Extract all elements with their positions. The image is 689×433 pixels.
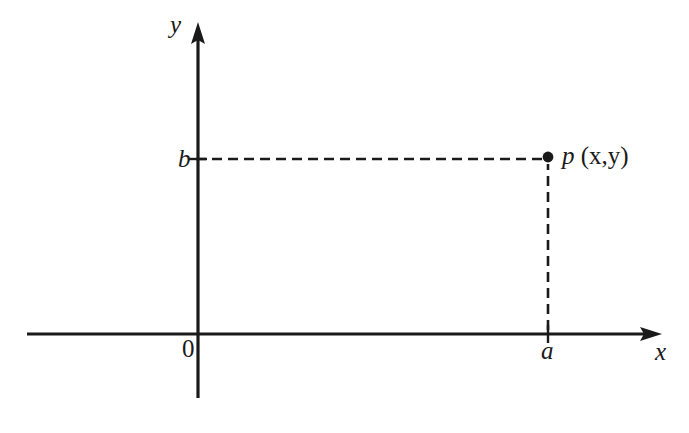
y-axis-label: y [170, 12, 181, 37]
point-label-coords: (x,y) [575, 142, 629, 169]
y-tick-label-b: b [178, 146, 191, 171]
diagram-vector-layer [0, 0, 689, 433]
origin-label: 0 [182, 336, 195, 361]
coordinate-diagram-figure: y x 0 b a p (x,y) [0, 0, 689, 433]
x-tick-label-a: a [541, 338, 554, 363]
point-label-name: p [562, 142, 575, 169]
x-axis-label: x [655, 339, 666, 364]
point-label: p (x,y) [562, 143, 629, 168]
plotted-point-dot [543, 152, 554, 163]
